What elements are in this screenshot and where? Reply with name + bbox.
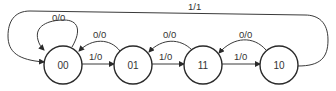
transition-label-01-11: 1/0	[159, 51, 172, 62]
transition-label-11-01: 0/0	[163, 29, 176, 40]
transition-label-11-10: 1/0	[234, 51, 247, 62]
transition-label-10-11: 0/0	[239, 29, 252, 40]
state-diagram: 1/1 0/0 1/0 0/0 1/0 0/0 1/0 0/0 00 01 11…	[0, 0, 336, 91]
state-11: 11	[184, 46, 222, 84]
svg-text:00: 00	[57, 60, 69, 71]
transition-label-01-00: 0/0	[93, 29, 106, 40]
transition-label-00-01: 1/0	[89, 51, 102, 62]
transition-label-10-00: 1/1	[188, 1, 201, 12]
transition-00-self	[37, 20, 77, 50]
state-00: 00	[44, 46, 82, 84]
svg-text:10: 10	[273, 60, 285, 71]
transition-01-to-00	[79, 41, 120, 51]
svg-text:11: 11	[198, 60, 209, 71]
state-01: 01	[114, 46, 152, 84]
state-10: 10	[260, 46, 298, 84]
svg-text:01: 01	[127, 60, 139, 71]
transition-label-00-self: 0/0	[52, 12, 65, 23]
